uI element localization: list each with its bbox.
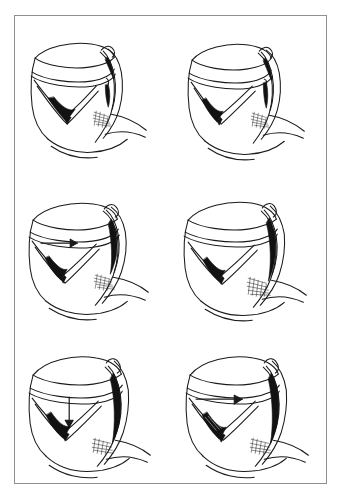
illustration-panel-bottom-left — [15, 329, 172, 485]
plate-frame — [14, 15, 327, 484]
illustration-panel-middle-right — [172, 172, 329, 328]
illustration-panel-top-left — [15, 16, 172, 172]
illustration-panel-middle-left — [15, 172, 172, 328]
illustration-panel-top-right — [172, 16, 329, 172]
larynx-drawing-1 — [15, 16, 172, 172]
figure-page — [0, 0, 344, 501]
larynx-drawing-5 — [15, 329, 172, 485]
larynx-drawing-6 — [172, 329, 329, 485]
larynx-drawing-4 — [172, 172, 329, 328]
panel-grid — [15, 16, 328, 485]
larynx-drawing-2 — [172, 16, 329, 172]
larynx-drawing-3 — [15, 172, 172, 328]
illustration-panel-bottom-right — [172, 329, 329, 485]
